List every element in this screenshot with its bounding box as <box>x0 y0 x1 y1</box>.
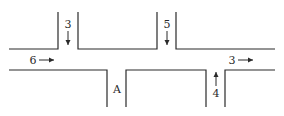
road-top-edges <box>9 12 275 49</box>
flow-bottom-right: 4 <box>213 72 220 100</box>
road-bottom-edges <box>9 70 275 107</box>
flow-value-label: 4 <box>213 87 220 100</box>
flow-value-label: 3 <box>229 54 236 67</box>
flow-right: 3 <box>229 54 254 67</box>
flow-value-label: 3 <box>65 18 72 31</box>
flow-value-label: 5 <box>164 18 171 31</box>
flow-value-label: 6 <box>30 54 37 67</box>
flow-left: 6 <box>30 54 55 67</box>
road-network-diagram: 3 5 6 3 4 A <box>0 0 284 116</box>
flow-top-left: 3 <box>65 18 72 45</box>
flow-top-right: 5 <box>164 18 171 45</box>
unknown-flow-label: A <box>112 83 122 96</box>
